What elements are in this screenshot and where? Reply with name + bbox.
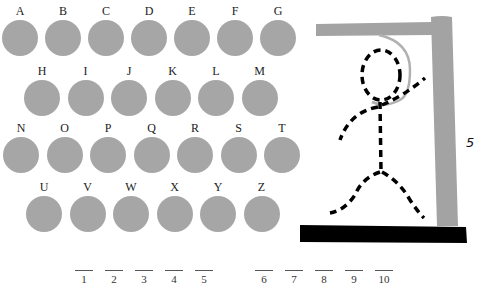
- answer-slot: 1: [75, 270, 93, 286]
- hangman-drawing: [0, 0, 481, 289]
- answer-slot: 7: [285, 270, 303, 286]
- figure-head: [362, 50, 400, 100]
- gallows-base: [300, 225, 467, 243]
- answer-slot: 10: [375, 270, 393, 286]
- gallows-pole: [431, 16, 458, 226]
- wrong-guess-count: 5: [466, 135, 474, 150]
- figure-body: [380, 102, 381, 172]
- gallows-beam: [316, 22, 432, 36]
- answer-slot: 5: [195, 270, 213, 286]
- answer-slot: 9: [345, 270, 363, 286]
- figure-leg-left: [330, 172, 380, 213]
- figure-arm-left: [340, 107, 378, 140]
- answer-slot: 8: [315, 270, 333, 286]
- figure-leg-right: [382, 172, 424, 218]
- answer-slot: 4: [165, 270, 183, 286]
- answer-slot: 2: [105, 270, 123, 286]
- answer-slot: 6: [255, 270, 273, 286]
- figure-arm-right: [382, 78, 425, 105]
- gallows: [300, 16, 467, 243]
- answer-slot: 3: [135, 270, 153, 286]
